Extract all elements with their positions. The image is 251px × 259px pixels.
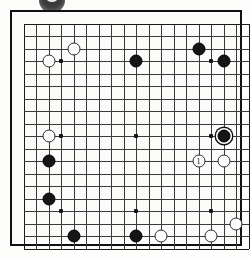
star-point bbox=[209, 134, 213, 138]
stone-white[interactable] bbox=[67, 42, 80, 55]
stone-black[interactable] bbox=[130, 230, 143, 243]
stone-white[interactable] bbox=[42, 55, 55, 68]
grid-line-horizontal bbox=[24, 124, 249, 125]
stone-black[interactable] bbox=[192, 42, 205, 55]
grid-line-horizontal bbox=[24, 161, 249, 162]
grid-line-horizontal bbox=[24, 224, 249, 225]
star-point bbox=[59, 209, 63, 213]
grid-line-horizontal bbox=[24, 249, 249, 250]
star-point bbox=[209, 209, 213, 213]
grid-line-horizontal bbox=[24, 49, 249, 50]
grid-line-horizontal bbox=[24, 111, 249, 112]
stone-black[interactable] bbox=[67, 230, 80, 243]
stone-white-1[interactable]: 1 bbox=[192, 155, 205, 168]
go-board-grid[interactable]: 1 bbox=[10, 10, 242, 246]
grid-line-horizontal bbox=[24, 199, 249, 200]
page-canvas: 1 bbox=[0, 0, 251, 259]
star-point bbox=[134, 134, 138, 138]
stone-white[interactable] bbox=[42, 130, 55, 143]
grid-line-vertical bbox=[249, 24, 250, 249]
star-point bbox=[59, 134, 63, 138]
stone-black[interactable] bbox=[130, 55, 143, 68]
grid-line-horizontal bbox=[24, 99, 249, 100]
stone-white[interactable] bbox=[230, 217, 243, 230]
stone-black[interactable] bbox=[217, 130, 230, 143]
grid-line-horizontal bbox=[24, 186, 249, 187]
stone-black[interactable] bbox=[42, 192, 55, 205]
grid-line-horizontal bbox=[24, 74, 249, 75]
stone-white[interactable] bbox=[217, 155, 230, 168]
stone-black[interactable] bbox=[217, 55, 230, 68]
stone-black[interactable] bbox=[42, 155, 55, 168]
grid-line-horizontal bbox=[24, 24, 249, 25]
grid-line-horizontal bbox=[24, 174, 249, 175]
move-number-label: 1 bbox=[193, 156, 204, 167]
stone-white[interactable] bbox=[205, 230, 218, 243]
star-point bbox=[134, 209, 138, 213]
stone-white[interactable] bbox=[155, 230, 168, 243]
go-board[interactable]: 1 bbox=[10, 10, 242, 246]
star-point bbox=[209, 59, 213, 63]
grid-line-horizontal bbox=[24, 86, 249, 87]
grid-line-horizontal bbox=[24, 36, 249, 37]
grid-line-horizontal bbox=[24, 149, 249, 150]
star-point bbox=[59, 59, 63, 63]
